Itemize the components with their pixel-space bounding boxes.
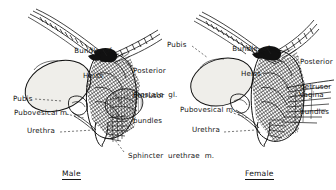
label-female-bundle-of-heiss-line1: Bundle of (225, 45, 277, 53)
label-male-bundle-of-heiss-line2: Heiss (64, 72, 122, 80)
label-male-sphincter-urethrae-muscle: Sphincter urethrae m. (128, 152, 214, 160)
anatomical-figure: Bundle of Heiss Posterior detrusor bundl… (0, 0, 336, 190)
label-female-urethra: Urethra (192, 126, 220, 134)
label-female-posterior-detrusor-line3: bundles (300, 108, 333, 116)
label-male-posterior-detrusor-line3: bundles (133, 117, 166, 125)
label-male-urethra: Urethra (27, 127, 55, 135)
label-male-prostate-gland: Prostate gl. (133, 91, 177, 99)
caption-male: Male (62, 169, 81, 180)
label-male-bundle-of-heiss-line1: Bundle of (64, 47, 122, 55)
label-male-bundle-of-heiss: Bundle of Heiss (64, 30, 122, 97)
label-female-vagina: Vagina (299, 91, 324, 99)
leader-male-urethra (60, 130, 94, 132)
label-male-posterior-detrusor-line1: Posterior (133, 67, 166, 75)
label-female-posterior-detrusor-line1: Posterior (300, 58, 333, 66)
label-female-bundle-of-heiss-line2: Heiss (225, 70, 277, 78)
label-female-posterior-detrusor-bundles: Posterior detrusor bundles (300, 41, 333, 133)
leader-female-pubis (192, 46, 208, 58)
label-female-pubovesical-muscle: Pubovesical m. (180, 106, 235, 114)
label-male-pubis: Pubis (13, 95, 33, 103)
label-female-bundle-of-heiss: Bundle of Heiss (225, 28, 277, 95)
caption-female: Female (245, 169, 274, 180)
leader-female-urethra (224, 130, 256, 132)
label-male-pubovesical-muscle: Pubovesical m. (14, 109, 69, 117)
label-female-pubis: Pubis (167, 41, 187, 49)
